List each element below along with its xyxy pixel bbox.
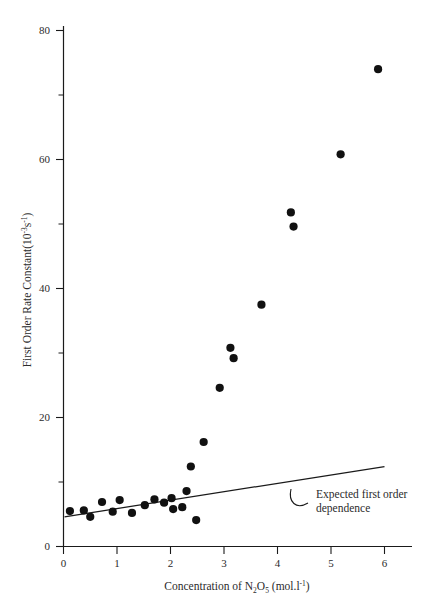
data-point	[374, 65, 382, 73]
y-tick-label-60: 60	[39, 153, 51, 165]
data-point	[337, 150, 345, 158]
scatter-chart-figure: 0 20 40 60 80 0 1 2 3 4 5 6	[0, 0, 434, 611]
y-tick-label-0: 0	[45, 540, 51, 552]
x-tick-label-3: 3	[221, 557, 227, 569]
data-point	[287, 208, 295, 216]
x-axis-title-mid: O	[257, 580, 265, 592]
data-point	[160, 499, 168, 507]
x-axis-title-unit-open: (mol.l	[269, 580, 300, 593]
x-tick-label-1: 1	[114, 557, 120, 569]
data-point	[226, 344, 234, 352]
data-point	[257, 301, 265, 309]
data-point	[98, 498, 106, 506]
data-point	[289, 222, 297, 230]
data-point	[178, 503, 186, 511]
data-point	[216, 384, 224, 392]
x-tick-label-0: 0	[61, 557, 67, 569]
y-axis-title-prefix: First Order Rate Constant(10	[21, 233, 34, 367]
data-point	[167, 494, 175, 502]
svg-text:First Order Rate Constant(10-3: First Order Rate Constant(10-3s-1)	[20, 213, 34, 368]
y-tick-label-40: 40	[39, 282, 51, 294]
data-point	[66, 507, 74, 515]
x-axis-title-unit-close: )	[306, 580, 310, 593]
x-tick-label-2: 2	[168, 557, 174, 569]
data-point	[86, 513, 94, 521]
data-point	[230, 354, 238, 362]
x-tick-label-5: 5	[328, 557, 334, 569]
data-point	[128, 509, 136, 517]
y-axis-title-suffix: )	[21, 213, 34, 217]
y-tick-label-20: 20	[39, 411, 51, 423]
data-point	[200, 438, 208, 446]
data-point	[141, 501, 149, 509]
data-point	[182, 487, 190, 495]
data-point	[116, 496, 124, 504]
data-point	[169, 505, 177, 513]
data-point	[192, 516, 200, 524]
data-point	[109, 508, 117, 516]
x-tick-label-4: 4	[275, 557, 281, 569]
chart-canvas: 0 20 40 60 80 0 1 2 3 4 5 6	[0, 0, 434, 611]
chart-background	[0, 0, 434, 611]
data-point	[80, 506, 88, 514]
x-axis-title-prefix: Concentration of N	[164, 580, 253, 592]
y-tick-label-80: 80	[39, 24, 51, 36]
annotation-line-2: dependence	[316, 502, 370, 515]
annotation-line-1: Expected first order	[316, 488, 407, 501]
y-axis-title: First Order Rate Constant(10-3s-1)	[20, 213, 34, 368]
x-tick-label-6: 6	[382, 557, 388, 569]
data-point	[150, 495, 158, 503]
data-point	[187, 462, 195, 470]
